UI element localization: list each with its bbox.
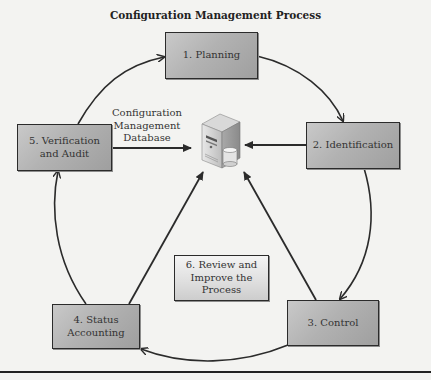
arrow-planning-to-identification: [257, 56, 343, 121]
step-review-improve: 6. Review and Improve the Process: [174, 255, 269, 301]
step-status-accounting: 4. Status Accounting: [52, 304, 140, 349]
arrow-control-to-status: [141, 345, 288, 361]
arrow-status-to-verification: [55, 171, 86, 304]
bottom-divider: [0, 371, 431, 373]
arrow-identification-to-control: [340, 168, 371, 299]
step-verification-audit: 5. Verification and Audit: [17, 124, 112, 171]
step-planning: 1. Planning: [165, 32, 258, 79]
step-identification: 2. Identification: [306, 122, 400, 169]
step-control: 3. Control: [287, 300, 379, 346]
database-label: Configuration Management Database: [108, 107, 186, 145]
server-database-icon: [198, 110, 246, 172]
